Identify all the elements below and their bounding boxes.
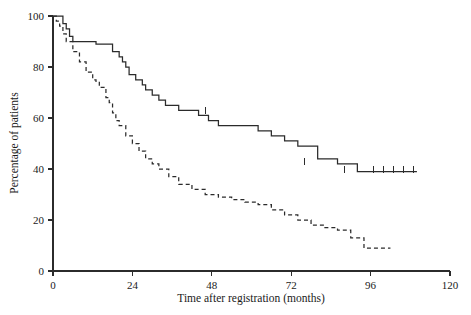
y-axis-title: Percentage of patients xyxy=(8,92,21,194)
x-tick-group: 024487296120 xyxy=(50,271,459,291)
x-tick-label-48: 48 xyxy=(206,279,218,291)
y-tick-group: 020406080100 xyxy=(28,10,54,277)
y-tick-label-100: 100 xyxy=(28,10,45,22)
axes-group xyxy=(53,16,450,271)
x-tick-label-72: 72 xyxy=(286,279,297,291)
x-tick-label-96: 96 xyxy=(365,279,377,291)
x-tick-label-0: 0 xyxy=(50,279,56,291)
x-axis-title: Time after registration (months) xyxy=(177,292,325,305)
curve-solid-curve xyxy=(53,16,417,172)
y-tick-label-60: 60 xyxy=(33,112,45,124)
survival-chart-figure: 024487296120 020406080100 Time after reg… xyxy=(0,0,471,315)
y-tick-label-0: 0 xyxy=(39,265,45,277)
y-tick-label-40: 40 xyxy=(33,163,45,175)
censor-group xyxy=(205,107,413,173)
x-tick-label-24: 24 xyxy=(127,279,139,291)
x-tick-label-120: 120 xyxy=(442,279,459,291)
kaplan-meier-plot: 024487296120 020406080100 Time after reg… xyxy=(0,0,471,315)
curve-dashed-curve xyxy=(53,16,390,248)
y-tick-label-80: 80 xyxy=(33,61,45,73)
y-tick-label-20: 20 xyxy=(33,214,45,226)
curve-group xyxy=(53,16,417,248)
